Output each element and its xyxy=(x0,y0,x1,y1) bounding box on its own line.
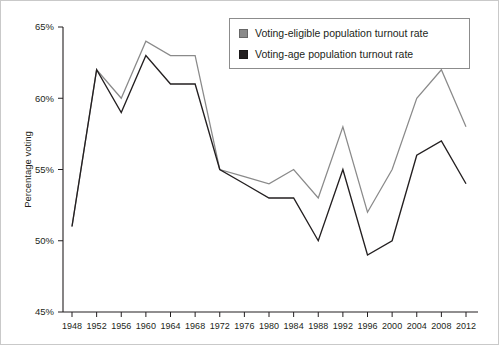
legend-label-voting-eligible: Voting-eligible population turnout rate xyxy=(255,27,428,39)
series-line-voting-eligible xyxy=(72,41,466,226)
x-tick-label: 1992 xyxy=(333,321,353,331)
legend-swatch-icon-voting-eligible xyxy=(239,29,248,38)
x-tick-label: 1984 xyxy=(284,321,304,331)
x-tick-label: 2008 xyxy=(431,321,451,331)
x-tick-label: 1996 xyxy=(357,321,377,331)
x-tick-label: 2012 xyxy=(456,321,476,331)
x-tick-label: 2004 xyxy=(407,321,427,331)
x-tick-label: 1964 xyxy=(160,321,180,331)
x-tick-label: 1956 xyxy=(111,321,131,331)
x-tick-label: 1972 xyxy=(210,321,230,331)
y-tick-label: 45% xyxy=(35,306,55,317)
y-axis-ticks: 45%50%55%60%65% xyxy=(35,21,63,317)
x-tick-label: 2000 xyxy=(382,321,402,331)
x-tick-label: 1968 xyxy=(185,321,205,331)
x-axis-ticks: 1948195219561960196419681972197619801984… xyxy=(62,312,476,331)
y-tick-label: 60% xyxy=(35,93,55,104)
legend-label-voting-age: Voting-age population turnout rate xyxy=(255,48,413,60)
y-tick-label: 55% xyxy=(35,164,55,175)
x-tick-label: 1952 xyxy=(87,321,107,331)
y-tick-label: 50% xyxy=(35,235,55,246)
legend-item-voting-age: Voting-age population turnout rate xyxy=(239,46,461,62)
x-tick-label: 1960 xyxy=(136,321,156,331)
x-tick-label: 1980 xyxy=(259,321,279,331)
y-tick-label: 65% xyxy=(35,21,55,32)
chart-figure: 45%50%55%60%65% 194819521956196019641968… xyxy=(0,0,499,345)
x-tick-label: 1988 xyxy=(308,321,328,331)
legend-swatch-icon-voting-age xyxy=(239,50,248,59)
legend-item-voting-eligible: Voting-eligible population turnout rate xyxy=(239,25,461,41)
y-axis-title: Percentage voting xyxy=(22,131,33,208)
x-tick-label: 1976 xyxy=(234,321,254,331)
x-tick-label: 1948 xyxy=(62,321,82,331)
chart-legend: Voting-eligible population turnout rate … xyxy=(229,18,470,69)
series-line-voting-age xyxy=(72,56,466,256)
